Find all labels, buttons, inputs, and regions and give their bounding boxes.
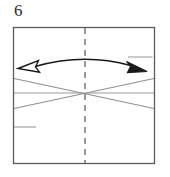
paper-sheet [14, 28, 155, 164]
origami-figure [0, 0, 170, 177]
origami-diagram: 6 [0, 0, 170, 177]
